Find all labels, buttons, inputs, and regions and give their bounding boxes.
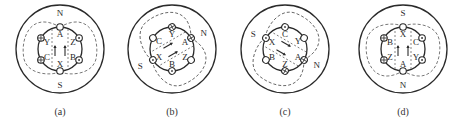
phase-label: B bbox=[169, 59, 175, 69]
conductor-slot-Z bbox=[381, 57, 388, 64]
phase-label: X bbox=[156, 52, 163, 62]
phase-label: B bbox=[70, 52, 76, 62]
arrowhead-icon bbox=[170, 41, 174, 45]
phase-label: Z bbox=[70, 37, 76, 47]
arrowhead-icon bbox=[175, 50, 179, 54]
phase-label: A bbox=[295, 51, 302, 61]
conductor-slot-Z bbox=[76, 35, 83, 42]
pole-label-bottom: N bbox=[400, 80, 407, 90]
caption-c: (c) bbox=[279, 106, 290, 117]
arrowhead-icon bbox=[288, 44, 292, 48]
phase-label: C bbox=[44, 52, 50, 62]
phase-label: B bbox=[387, 37, 393, 47]
pole-label-bottom: S bbox=[138, 61, 143, 71]
pole-label-bottom: S bbox=[57, 80, 62, 90]
arrowhead-icon bbox=[396, 45, 399, 48]
arrowhead-icon bbox=[283, 52, 287, 56]
arrowhead-icon bbox=[406, 45, 409, 48]
pole-label-top: N bbox=[200, 28, 207, 38]
phase-label: C bbox=[156, 36, 162, 46]
caption-b: (b) bbox=[166, 106, 178, 117]
phase-label: Y bbox=[295, 36, 302, 46]
stator-diagrams: AZBXCYNSAZBXCYNSAZBXCYNSAZBXCYSN bbox=[0, 0, 457, 124]
phase-label: X bbox=[57, 59, 64, 69]
phase-label: A bbox=[57, 29, 64, 39]
flux-line bbox=[407, 24, 440, 76]
phase-label: Z bbox=[282, 59, 288, 69]
phase-label: Y bbox=[44, 37, 51, 47]
conductor-slot-Z bbox=[187, 55, 196, 64]
phase-label: Z bbox=[182, 52, 188, 62]
caption-d: (d) bbox=[397, 106, 409, 117]
flux-line bbox=[23, 22, 56, 74]
arrowhead-icon bbox=[53, 45, 56, 48]
figure: AZBXCYNSAZBXCYNSAZBXCYNSAZBXCYSN (a) (b)… bbox=[0, 0, 457, 124]
phase-label: A bbox=[182, 37, 189, 47]
pole-label-top: N bbox=[57, 8, 64, 18]
phase-label: A bbox=[400, 59, 407, 69]
phase-label: Y bbox=[413, 52, 420, 62]
phase-label: C bbox=[282, 29, 288, 39]
pole-label-top: S bbox=[400, 8, 405, 18]
phase-label: X bbox=[269, 36, 276, 46]
flux-line bbox=[159, 46, 194, 66]
flux-line bbox=[152, 39, 213, 93]
rotated-group: AZBXCY bbox=[366, 24, 440, 76]
current-out-dot-icon bbox=[421, 59, 423, 61]
flux-line bbox=[366, 24, 399, 76]
phase-label: B bbox=[269, 51, 275, 61]
current-out-dot-icon bbox=[421, 37, 423, 39]
conductor-slot-C bbox=[419, 35, 426, 42]
rotated-group: AZBXCY bbox=[23, 22, 97, 74]
stator-panel-d: AZBXCYSN bbox=[359, 5, 447, 93]
stator-panel-b: AZBXCYNS bbox=[128, 4, 216, 94]
stator-panel-c: AZBXCYNS bbox=[241, 4, 329, 94]
slot-circle bbox=[187, 55, 196, 64]
arrowhead-icon bbox=[63, 45, 66, 48]
pole-label-top: N bbox=[313, 60, 320, 70]
phase-label: C bbox=[413, 37, 419, 47]
phase-label: X bbox=[400, 29, 407, 39]
conductor-slot-Y bbox=[419, 57, 426, 64]
phase-label: Y bbox=[169, 29, 176, 39]
current-out-dot-icon bbox=[78, 59, 80, 61]
conductor-slot-B bbox=[76, 57, 83, 64]
pole-label-bottom: S bbox=[251, 29, 256, 39]
stator-panel-a: AZBXCYNS bbox=[16, 5, 104, 93]
phase-label: Z bbox=[387, 52, 393, 62]
flux-line bbox=[64, 22, 97, 74]
caption-a: (a) bbox=[54, 106, 65, 117]
current-out-dot-icon bbox=[78, 37, 80, 39]
